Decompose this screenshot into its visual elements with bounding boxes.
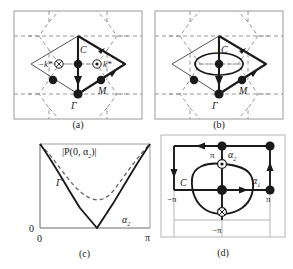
panel-a-label-k-star: k*: [103, 59, 112, 69]
panel-a-svg: C Γ M k* −k*: [13, 10, 143, 120]
panel-c-title: |P(0, α2)|: [62, 146, 96, 159]
panel-d-vortex-positive-marker: [218, 160, 227, 169]
panel-d-label-minus-pi-bottom: −π: [212, 225, 222, 235]
panel-d-vortex-negative-marker: [218, 208, 227, 217]
panel-c-x-axis-label-sub: 2: [127, 221, 130, 227]
panel-c-title-main: |P(0, α: [62, 146, 89, 158]
panel-c-svg: |P(0, α2)| Γ α2 0 0 π: [18, 140, 151, 245]
panel-b-dot-center: [215, 60, 223, 68]
panel-d-label-contour: C: [180, 177, 187, 188]
panel-b-caption: (b): [154, 119, 284, 130]
panel-a-minus-k-star-marker: [55, 60, 63, 68]
panel-a-caption: (a): [13, 119, 143, 130]
panel-d-label-pi-right: π: [266, 194, 271, 204]
panel-c-ytick-zero: 0: [29, 223, 34, 234]
panel-a-dot-left: [49, 76, 57, 84]
panel-b-dot-left: [190, 76, 198, 84]
panel-a-label-gamma: Γ: [70, 100, 77, 111]
figure-root: C Γ M k* −k* (a): [0, 0, 293, 269]
panel-a-label-m: M: [97, 85, 107, 96]
panel-d-dot-center: [217, 185, 227, 195]
panel-d-label-minus-pi-left: −π: [167, 194, 177, 204]
panel-c-title-tail: )|: [91, 146, 96, 158]
panel-d-label-alpha1-sub: 1: [257, 182, 260, 188]
panel-b-label-gamma: Γ: [211, 100, 218, 111]
panel-c-xtick-zero: 0: [37, 233, 42, 244]
panel-d-caption: (d): [160, 247, 286, 258]
panel-d: π α2 α1 C −π π −π: [160, 134, 286, 246]
panel-d-label-alpha2-sub: 2: [233, 156, 236, 162]
panel-b-label-m: M: [238, 85, 248, 96]
panel-c-label-gamma: Γ: [55, 177, 62, 188]
panel-c-xtick-pi: π: [145, 232, 150, 243]
panel-b-dot-gamma: [214, 89, 223, 98]
panel-b-label-contour: C: [221, 44, 228, 55]
panel-b-dot-m: [238, 76, 246, 84]
panel-b: C Γ M: [154, 10, 284, 120]
panel-a-dot-gamma: [73, 89, 82, 98]
panel-a-label-contour: C: [80, 44, 87, 55]
panel-c: |P(0, α2)| Γ α2 0 0 π: [18, 140, 151, 245]
panel-a-k-star-marker: [93, 60, 101, 68]
panel-d-svg: π α2 α1 C −π π −π: [160, 134, 286, 246]
panel-a: C Γ M k* −k*: [13, 10, 143, 120]
panel-d-dot-top: [217, 141, 226, 150]
panel-d-label-pi-top: π: [210, 150, 215, 160]
panel-a-label-minus-k-star: −k*: [38, 59, 53, 69]
panel-b-svg: C Γ M: [154, 10, 284, 120]
panel-c-caption: (c): [18, 248, 151, 259]
panel-d-dot-top-right: [265, 141, 274, 150]
panel-a-dot-m: [97, 76, 105, 84]
panel-a-dot-center: [74, 60, 82, 68]
panel-c-x-axis-label: α2: [122, 214, 130, 227]
